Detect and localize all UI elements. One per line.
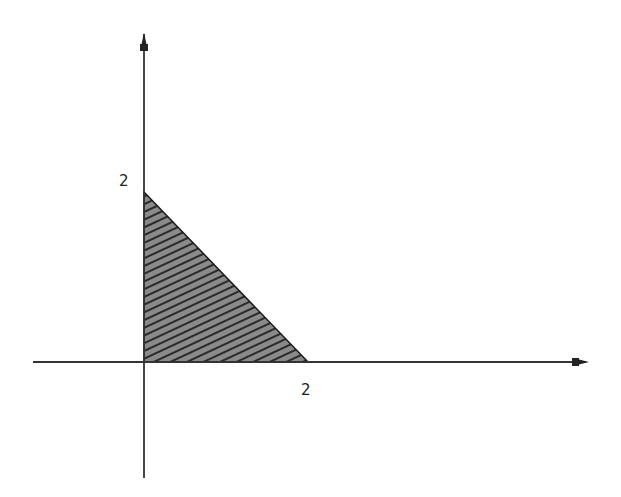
x-axis-arrow-icon bbox=[572, 358, 579, 366]
y-tick-label: 2 bbox=[119, 172, 129, 190]
region-diagram: 2 2 bbox=[0, 0, 621, 497]
y-axis-arrow-icon bbox=[140, 44, 148, 51]
shaded-triangle-region bbox=[144, 192, 308, 362]
x-axis bbox=[33, 358, 589, 366]
y-axis-arrowhead-icon bbox=[142, 33, 147, 44]
x-axis-arrowhead-icon bbox=[579, 360, 589, 365]
x-tick-label: 2 bbox=[301, 381, 311, 399]
